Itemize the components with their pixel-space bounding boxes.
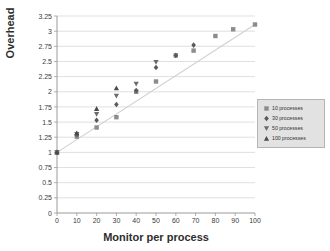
svg-text:1.25: 1.25	[38, 134, 52, 141]
legend-label: 50 processes	[272, 124, 303, 133]
data-point	[94, 112, 99, 117]
legend-label: 100 processes	[272, 134, 306, 143]
svg-text:2.25: 2.25	[38, 73, 52, 80]
svg-text:2.5: 2.5	[42, 58, 52, 65]
svg-text:0.25: 0.25	[38, 194, 52, 201]
svg-text:0.75: 0.75	[38, 164, 52, 171]
scatter-chart: Overhead Monitor per process 00.250.50.7…	[0, 0, 330, 251]
diamond-marker-icon	[261, 114, 272, 123]
data-point	[114, 102, 119, 108]
svg-text:30: 30	[113, 217, 121, 224]
y-tick-labels: 00.250.50.7511.251.51.7522.252.52.7533.2…	[38, 13, 57, 217]
legend-item-0[interactable]: 10 processes	[261, 104, 322, 113]
data-point	[134, 82, 139, 87]
data-point	[231, 27, 235, 31]
svg-text:2.75: 2.75	[38, 43, 52, 50]
data-point	[114, 94, 119, 99]
trend-line	[57, 25, 255, 153]
svg-text:0: 0	[48, 210, 52, 217]
data-point	[264, 126, 269, 131]
data-point	[264, 106, 268, 110]
axis-lines	[57, 16, 255, 213]
svg-text:2: 2	[48, 88, 52, 95]
series-100-processes	[54, 86, 119, 155]
data-point	[114, 115, 118, 119]
legend-item-3[interactable]: 100 processes	[261, 134, 322, 143]
legend-label: 30 processes	[272, 114, 303, 123]
square-marker-icon	[261, 104, 272, 113]
svg-text:10: 10	[73, 217, 81, 224]
data-point	[264, 116, 269, 122]
svg-text:0.5: 0.5	[42, 179, 52, 186]
svg-text:1: 1	[48, 149, 52, 156]
x-tick-labels: 0102030405060708090100	[55, 213, 261, 224]
legend-item-2[interactable]: 50 processes	[261, 124, 322, 133]
triangle-up-marker-icon	[261, 134, 272, 143]
data-point	[213, 34, 217, 38]
data-point	[94, 125, 98, 129]
triangle-down-marker-icon	[261, 124, 272, 133]
svg-text:100: 100	[249, 217, 261, 224]
data-point	[114, 86, 119, 91]
svg-text:20: 20	[93, 217, 101, 224]
data-point	[154, 65, 159, 71]
data-point	[154, 79, 158, 83]
svg-text:70: 70	[192, 217, 200, 224]
legend-label: 10 processes	[272, 104, 303, 113]
svg-text:50: 50	[152, 217, 160, 224]
legend-item-1[interactable]: 30 processes	[261, 114, 322, 123]
svg-text:90: 90	[231, 217, 239, 224]
data-point	[153, 60, 158, 65]
data-point	[191, 42, 196, 48]
svg-text:3.25: 3.25	[38, 13, 52, 20]
svg-text:80: 80	[212, 217, 220, 224]
svg-text:0: 0	[55, 217, 59, 224]
svg-text:60: 60	[172, 217, 180, 224]
series-50-processes	[54, 60, 158, 155]
svg-text:1.75: 1.75	[38, 104, 52, 111]
svg-text:40: 40	[132, 217, 140, 224]
chart-legend: 10 processes30 processes50 processes100 …	[257, 99, 325, 148]
data-point	[264, 136, 269, 141]
svg-text:1.5: 1.5	[42, 119, 52, 126]
data-point	[253, 22, 257, 26]
data-point	[191, 48, 195, 52]
svg-text:3: 3	[48, 28, 52, 35]
